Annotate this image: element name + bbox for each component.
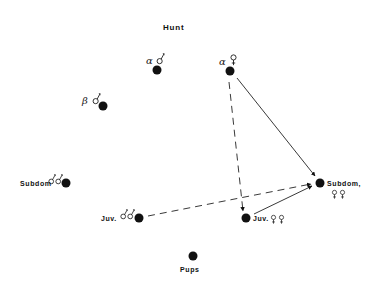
node-juv-males [135,214,144,223]
alpha-male-greek-label: α [146,56,153,66]
node-juv-females [242,214,251,223]
juv-males-label: Juv. [101,215,117,222]
beta-male-greek-label: β [82,96,88,106]
edges [148,78,315,216]
node-beta-male [99,102,108,111]
edge-alpha-female-to-subdom-females [237,78,315,176]
sex-symbols [49,53,345,223]
female-symbol-icon [340,190,344,198]
male-symbol-icon [93,93,100,103]
edge-juv-males-to-subdom-females [148,184,311,216]
subdom-males-label: Subdom [20,180,52,187]
node-alpha-male [153,66,162,75]
node-alpha-female [226,67,235,76]
juv-females-label: Juv. [253,215,269,222]
male-symbol-icon [121,209,128,219]
node-subdom-females [316,179,325,188]
edge-juv-females-to-subdom-females [254,186,312,214]
female-symbol-icon [271,215,275,223]
pups-label: Pups [180,266,200,273]
female-symbol-icon [279,215,283,223]
subdom-females-label: Subdom, [327,180,361,187]
male-symbol-icon [128,209,135,219]
male-symbol-icon [157,53,164,63]
node-subdom-males [62,179,71,188]
node-pups [189,252,198,261]
edge-alpha-female-to-juv-females [229,82,243,211]
hunt-diagram-canvas [0,0,377,288]
nodes [62,66,325,261]
female-symbol-icon [332,190,336,198]
diagram-title: Hunt [163,23,184,32]
alpha-female-greek-label: α [219,57,226,67]
female-symbol-icon [231,55,236,65]
